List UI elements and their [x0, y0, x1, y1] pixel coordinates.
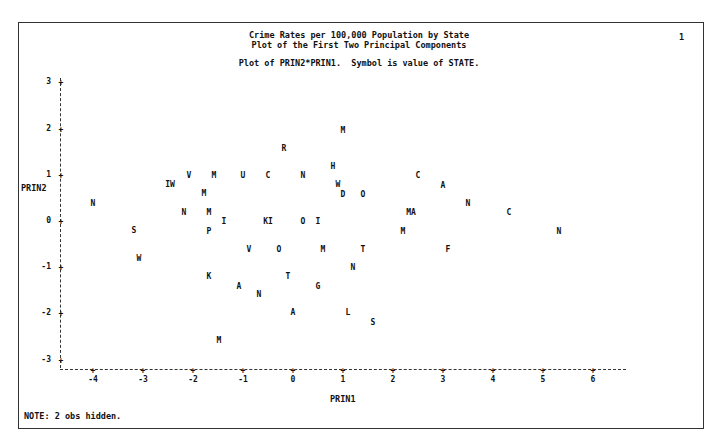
data-point: N: [182, 208, 187, 217]
x-tick-label: 0: [291, 375, 296, 384]
x-tick-label: -4: [88, 375, 98, 384]
data-point: I: [222, 217, 227, 226]
x-tick-label: -2: [188, 375, 198, 384]
y-tick-mark: +: [59, 217, 64, 226]
data-point: S: [371, 318, 376, 327]
data-point: A: [291, 308, 296, 317]
x-tick-mark: +: [341, 366, 346, 375]
x-tick-mark: +: [191, 366, 196, 375]
plot-description: Plot of PRIN2*PRIN1. Symbol is value of …: [0, 58, 718, 68]
data-point: R: [282, 144, 287, 153]
x-tick-label: -3: [138, 375, 148, 384]
y-tick-mark: +: [59, 355, 64, 364]
x-tick-label: -1: [238, 375, 248, 384]
data-point: I: [316, 217, 321, 226]
data-point: L: [346, 308, 351, 317]
page-number: 1: [679, 32, 684, 42]
x-tick-mark: +: [441, 366, 446, 375]
data-point: IW: [165, 180, 175, 189]
y-tick-label: 0: [11, 216, 51, 225]
data-point: T: [361, 244, 366, 253]
data-point: O: [301, 217, 306, 226]
x-tick-mark: +: [541, 366, 546, 375]
data-point: C: [266, 171, 271, 180]
data-point: S: [132, 225, 137, 234]
y-tick-label: 1: [11, 170, 51, 179]
chart-title: Crime Rates per 100,000 Population by St…: [0, 30, 718, 40]
y-tick-mark: +: [59, 124, 64, 133]
data-point: M: [321, 244, 326, 253]
data-point: F: [446, 244, 451, 253]
y-tick-label: -2: [11, 308, 51, 317]
x-tick-label: 2: [391, 375, 396, 384]
data-point: V: [247, 244, 252, 253]
data-point: V: [187, 171, 192, 180]
x-tick-label: 4: [491, 375, 496, 384]
data-point: M: [207, 208, 212, 217]
data-point: M: [202, 189, 207, 198]
data-point: P: [207, 226, 212, 235]
data-point: H: [331, 162, 336, 171]
data-point: K: [207, 272, 212, 281]
data-point: N: [466, 198, 471, 207]
y-tick-label: -3: [11, 355, 51, 364]
x-tick-mark: +: [591, 366, 596, 375]
output-frame: [18, 22, 704, 429]
data-point: W: [137, 253, 142, 262]
x-tick-mark: +: [491, 366, 496, 375]
y-tick-mark: +: [59, 78, 64, 87]
data-point: M: [341, 125, 346, 134]
x-tick-label: 5: [541, 375, 546, 384]
data-point: A: [441, 181, 446, 190]
data-point: M: [401, 226, 406, 235]
x-tick-mark: +: [241, 366, 246, 375]
data-point: C: [416, 171, 421, 180]
data-point: N: [91, 198, 96, 207]
y-axis-label: PRIN2: [21, 183, 47, 193]
data-point: C: [507, 208, 512, 217]
x-tick-label: 3: [441, 375, 446, 384]
data-point: W: [336, 180, 341, 189]
y-tick-mark: +: [59, 263, 64, 272]
data-point: N: [257, 290, 262, 299]
data-point: O: [277, 244, 282, 253]
data-point: M: [217, 336, 222, 345]
x-tick-label: 1: [341, 375, 346, 384]
data-point: N: [301, 171, 306, 180]
y-tick-label: 3: [11, 77, 51, 86]
chart-subtitle: Plot of the First Two Principal Componen…: [0, 40, 718, 50]
data-point: N: [557, 226, 562, 235]
data-point: MA: [406, 208, 416, 217]
data-point: G: [316, 281, 321, 290]
x-tick-mark: +: [391, 366, 396, 375]
data-point: A: [237, 281, 242, 290]
y-tick-label: -1: [11, 262, 51, 271]
note-text: NOTE: 2 obs hidden.: [24, 411, 121, 421]
data-point: D: [341, 190, 346, 199]
y-tick-mark: +: [59, 170, 64, 179]
x-tick-label: 6: [591, 375, 596, 384]
x-axis-label: PRIN1: [330, 394, 356, 404]
data-point: U: [241, 171, 246, 180]
data-point: M: [212, 171, 217, 180]
x-tick-mark: +: [91, 366, 96, 375]
data-point: O: [361, 190, 366, 199]
data-point: N: [351, 262, 356, 271]
y-tick-label: 2: [11, 124, 51, 133]
x-tick-mark: +: [141, 366, 146, 375]
data-point: KI: [263, 217, 273, 226]
data-point: T: [286, 271, 291, 280]
x-tick-mark: +: [291, 366, 296, 375]
y-tick-mark: +: [59, 309, 64, 318]
